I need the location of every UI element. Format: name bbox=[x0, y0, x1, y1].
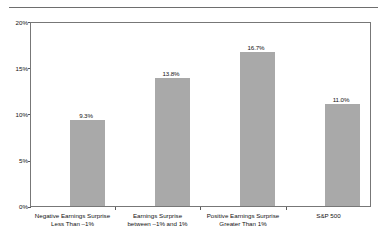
chart-figure: 20% 15% 10% 5% 0% 9.3% 13.8% 16.7% 11.0%… bbox=[0, 0, 387, 245]
x-category-line-1: Earnings Surprise bbox=[133, 212, 182, 219]
x-tick-mark-3 bbox=[286, 207, 287, 210]
x-category-label-negative-earnings-surprise: Negative Earnings Surprise Less Than –1% bbox=[30, 212, 115, 228]
x-category-label-positive-earnings-surprise: Positive Earnings Surprise Greater Than … bbox=[200, 212, 286, 228]
x-tick-mark-2 bbox=[200, 207, 201, 210]
x-category-label-earnings-surprise-between: Earnings Surprise between –1% and 1% bbox=[115, 212, 200, 228]
x-tick-mark-1 bbox=[115, 207, 116, 210]
bar-negative-earnings-surprise[interactable] bbox=[70, 120, 105, 206]
bar-earnings-surprise-between[interactable] bbox=[155, 78, 190, 206]
bar-sp500[interactable] bbox=[325, 104, 360, 206]
y-axis: 20% 15% 10% 5% 0% bbox=[8, 0, 28, 245]
x-category-line-1: S&P 500 bbox=[316, 212, 340, 219]
x-category-line-1: Positive Earnings Surprise bbox=[207, 212, 280, 219]
bar-positive-earnings-surprise[interactable] bbox=[240, 52, 275, 207]
bar-value-label-3: 16.7% bbox=[233, 44, 279, 51]
y-tick-label-15: 15% bbox=[16, 65, 28, 72]
y-tick-mark-0 bbox=[28, 207, 31, 208]
top-divider-rule bbox=[9, 7, 378, 8]
bar-value-label-1: 9.3% bbox=[63, 112, 109, 119]
y-tick-label-5: 5% bbox=[19, 157, 28, 164]
x-category-label-sp500: S&P 500 bbox=[286, 212, 371, 220]
bar-value-label-4: 11.0% bbox=[318, 96, 364, 103]
bar-value-label-2: 13.8% bbox=[148, 70, 194, 77]
x-category-line-1: Negative Earnings Surprise bbox=[35, 212, 110, 219]
x-category-line-2: Greater Than 1% bbox=[200, 220, 286, 228]
y-tick-label-10: 10% bbox=[16, 111, 28, 118]
y-tick-label-20: 20% bbox=[16, 19, 28, 26]
x-category-line-2: Less Than –1% bbox=[30, 220, 115, 228]
x-category-line-2: between –1% and 1% bbox=[115, 220, 200, 228]
y-tick-label-0: 0% bbox=[19, 203, 28, 210]
